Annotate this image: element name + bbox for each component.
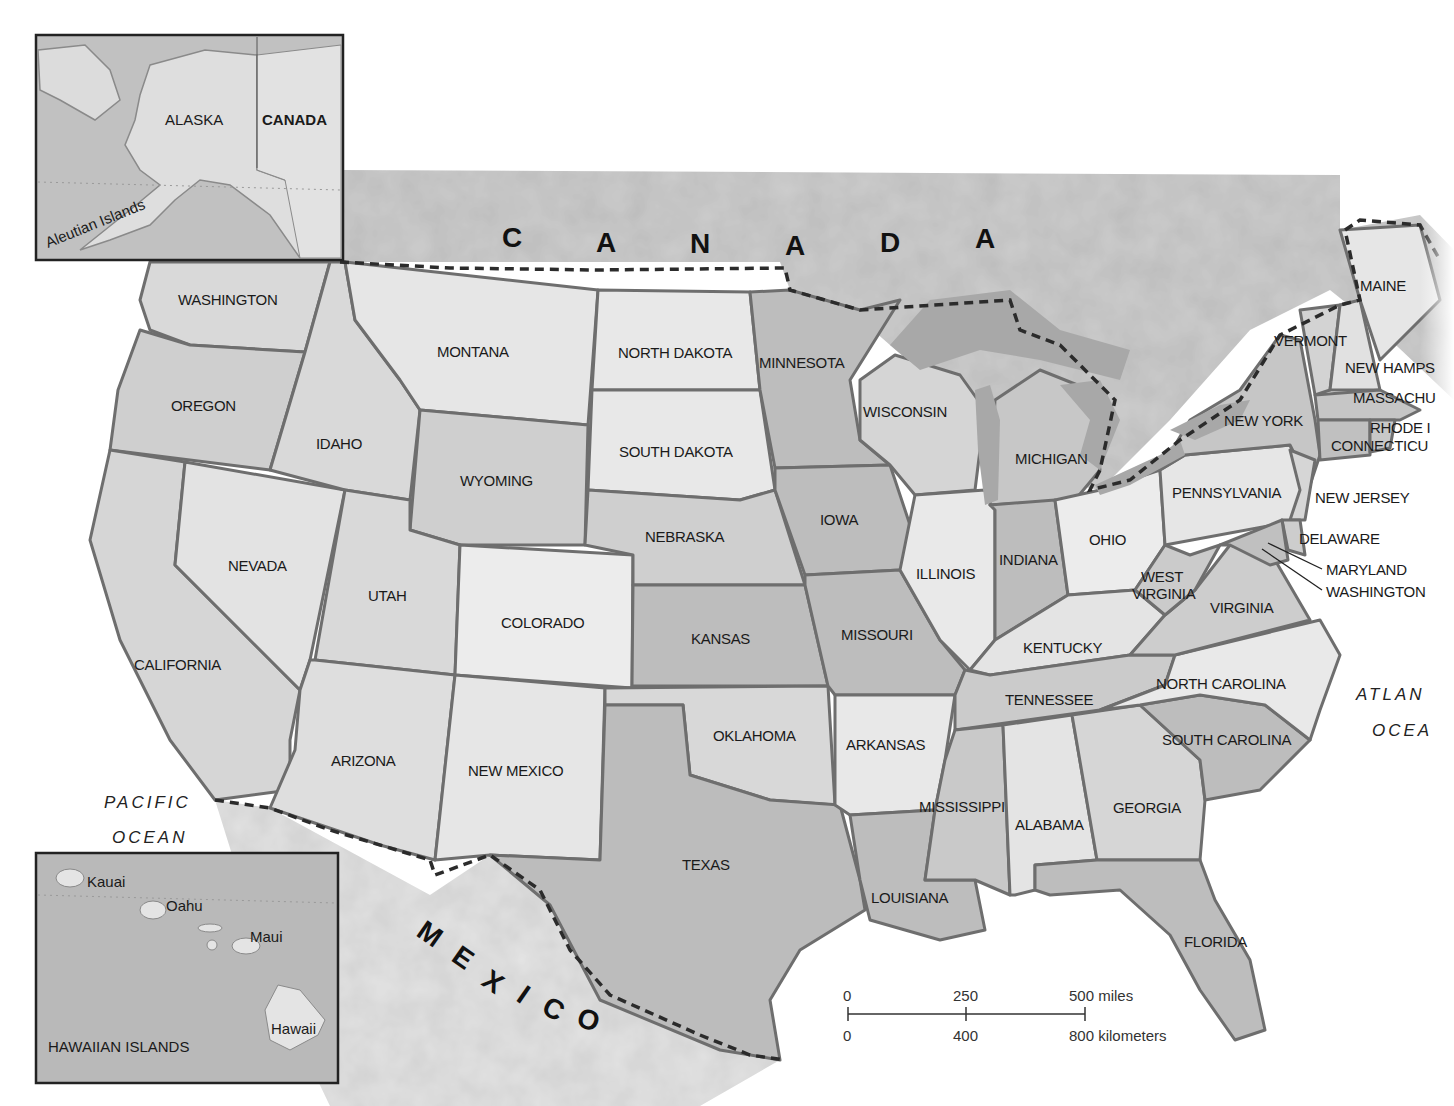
- svg-text:LOUISIANA: LOUISIANA: [871, 889, 949, 906]
- svg-text:KANSAS: KANSAS: [691, 630, 750, 647]
- map-canvas: C A N A D A M E X I C O PACIFIC OCEAN AT…: [0, 0, 1454, 1106]
- svg-text:MISSOURI: MISSOURI: [841, 626, 913, 643]
- svg-text:VIRGINIA: VIRGINIA: [1210, 599, 1274, 616]
- svg-text:OKLAHOMA: OKLAHOMA: [713, 727, 796, 744]
- svg-text:NEBRASKA: NEBRASKA: [645, 528, 725, 545]
- svg-text:250: 250: [953, 987, 978, 1004]
- svg-text:ARIZONA: ARIZONA: [331, 752, 396, 769]
- svg-text:MONTANA: MONTANA: [437, 343, 509, 360]
- svg-text:Oahu: Oahu: [166, 897, 203, 914]
- svg-text:WISCONSIN: WISCONSIN: [863, 403, 947, 420]
- svg-text:OHIO: OHIO: [1089, 531, 1126, 548]
- svg-text:MAINE: MAINE: [1360, 277, 1406, 294]
- svg-text:OREGON: OREGON: [171, 397, 236, 414]
- svg-text:WASHINGTON: WASHINGTON: [178, 291, 278, 308]
- hawaii-inset: Kauai Oahu Maui Hawaii HAWAIIAN ISLANDS: [36, 853, 338, 1083]
- svg-text:VIRGINIA: VIRGINIA: [1132, 585, 1196, 602]
- svg-text:RHODE I: RHODE I: [1370, 419, 1430, 436]
- svg-text:Hawaii: Hawaii: [271, 1020, 316, 1037]
- svg-text:WEST: WEST: [1141, 568, 1183, 585]
- svg-text:NORTH DAKOTA: NORTH DAKOTA: [618, 344, 732, 361]
- svg-text:SOUTH CAROLINA: SOUTH CAROLINA: [1162, 731, 1291, 748]
- state-florida[interactable]: [1035, 860, 1265, 1040]
- svg-text:NEW MEXICO: NEW MEXICO: [468, 762, 563, 779]
- svg-text:A: A: [975, 223, 995, 254]
- atlantic-ocean-label-line1: ATLAN: [1355, 685, 1425, 704]
- svg-text:KENTUCKY: KENTUCKY: [1023, 639, 1103, 656]
- svg-text:GEORGIA: GEORGIA: [1113, 799, 1181, 816]
- svg-text:TENNESSEE: TENNESSEE: [1005, 691, 1093, 708]
- svg-text:800 kilometers: 800 kilometers: [1069, 1027, 1167, 1044]
- kauai-island: [56, 869, 84, 887]
- svg-text:ARKANSAS: ARKANSAS: [846, 736, 926, 753]
- svg-text:TEXAS: TEXAS: [682, 856, 730, 873]
- svg-text:VERMONT: VERMONT: [1274, 332, 1347, 349]
- svg-text:IDAHO: IDAHO: [316, 435, 362, 452]
- state-north-dakota[interactable]: [592, 290, 760, 390]
- svg-text:CALIFORNIA: CALIFORNIA: [134, 656, 221, 673]
- svg-text:ALABAMA: ALABAMA: [1015, 816, 1084, 833]
- svg-text:INDIANA: INDIANA: [999, 551, 1058, 568]
- svg-text:COLORADO: COLORADO: [501, 614, 584, 631]
- svg-text:C: C: [502, 222, 522, 253]
- svg-text:IOWA: IOWA: [820, 511, 859, 528]
- svg-text:Kauai: Kauai: [87, 873, 125, 890]
- svg-text:A: A: [785, 230, 805, 261]
- svg-text:FLORIDA: FLORIDA: [1184, 933, 1247, 950]
- svg-text:MASSACHU: MASSACHU: [1353, 389, 1436, 406]
- svg-text:Maui: Maui: [250, 928, 283, 945]
- alaska-inset: ALASKA CANADA Aleutian Islands: [36, 35, 343, 260]
- svg-text:UTAH: UTAH: [368, 587, 407, 604]
- svg-text:PENNSYLVANIA: PENNSYLVANIA: [1172, 484, 1282, 501]
- svg-text:MARYLAND: MARYLAND: [1326, 561, 1407, 578]
- svg-text:NEW YORK: NEW YORK: [1224, 412, 1303, 429]
- pacific-ocean-label-line2: OCEAN: [112, 828, 187, 847]
- svg-text:N: N: [690, 228, 710, 259]
- svg-text:MINNESOTA: MINNESOTA: [759, 354, 845, 371]
- svg-text:HAWAIIAN ISLANDS: HAWAIIAN ISLANDS: [48, 1038, 189, 1055]
- pacific-ocean-label-line1: PACIFIC: [104, 793, 191, 812]
- svg-text:MISSISSIPPI: MISSISSIPPI: [919, 798, 1005, 815]
- lanai-island: [207, 940, 217, 950]
- svg-text:ALASKA: ALASKA: [165, 111, 223, 128]
- atlantic-ocean-label-line2: OCEA: [1372, 721, 1432, 740]
- svg-text:NEW HAMPS: NEW HAMPS: [1345, 359, 1435, 376]
- svg-text:SOUTH DAKOTA: SOUTH DAKOTA: [619, 443, 733, 460]
- svg-text:NEW JERSEY: NEW JERSEY: [1315, 489, 1410, 506]
- svg-text:D: D: [880, 227, 900, 258]
- svg-text:A: A: [596, 227, 616, 258]
- svg-text:WASHINGTON: WASHINGTON: [1326, 583, 1426, 600]
- scale-bar: 0 250 500 miles 0 400 800 kilometers: [843, 987, 1167, 1044]
- svg-text:NEVADA: NEVADA: [228, 557, 287, 574]
- svg-text:500 miles: 500 miles: [1069, 987, 1133, 1004]
- svg-text:NORTH CAROLINA: NORTH CAROLINA: [1156, 675, 1286, 692]
- svg-text:ILLINOIS: ILLINOIS: [916, 565, 976, 582]
- svg-text:CONNECTICU: CONNECTICU: [1331, 437, 1428, 454]
- oahu-island: [140, 901, 166, 919]
- svg-text:MICHIGAN: MICHIGAN: [1015, 450, 1088, 467]
- svg-text:0: 0: [843, 987, 851, 1004]
- svg-text:WYOMING: WYOMING: [460, 472, 533, 489]
- page-edge-fade: [1420, 0, 1454, 1106]
- svg-text:400: 400: [953, 1027, 978, 1044]
- svg-text:0: 0: [843, 1027, 851, 1044]
- molokai-island: [198, 924, 222, 932]
- us-map: C A N A D A M E X I C O PACIFIC OCEAN AT…: [0, 0, 1454, 1106]
- svg-text:DELAWARE: DELAWARE: [1299, 530, 1380, 547]
- svg-text:CANADA: CANADA: [262, 111, 327, 128]
